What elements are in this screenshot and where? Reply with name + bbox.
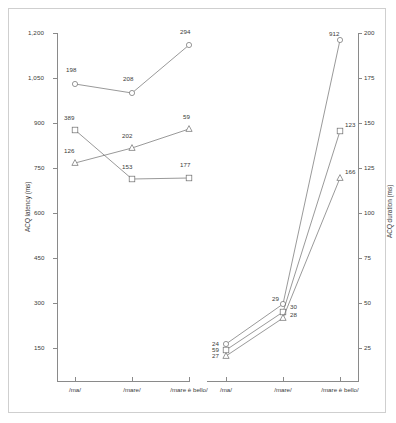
latency-circle-marker — [72, 81, 77, 86]
data-point-label: 912 — [329, 30, 339, 37]
data-point-label: 30 — [290, 303, 297, 310]
duration-triangle-marker — [280, 315, 286, 321]
duration-triangle-marker — [337, 175, 343, 181]
data-point-label: 389 — [64, 114, 74, 121]
plot-area: 1,200 1,050 900 750 600 450 300 150 200 … — [0, 0, 396, 423]
latency-circle-line — [75, 45, 189, 93]
data-point-label: 29 — [272, 295, 279, 302]
latency-circle-marker — [186, 42, 191, 47]
data-point-label: 126 — [64, 147, 74, 154]
duration-circle-line — [226, 40, 340, 344]
data-point-label: 153 — [122, 163, 132, 170]
duration-square-marker — [337, 128, 343, 134]
duration-circle-marker — [337, 37, 342, 42]
data-point-label: 59 — [183, 113, 190, 120]
data-point-label: 123 — [345, 121, 355, 128]
data-point-label: 198 — [66, 66, 76, 73]
duration-circle-marker — [223, 341, 228, 346]
data-point-label: 27 — [212, 352, 219, 359]
duration-triangle-marker — [223, 353, 229, 359]
data-point-label: 166 — [345, 168, 355, 175]
latency-square-marker — [72, 127, 78, 133]
series-container — [0, 0, 396, 423]
chart-page: 1,200 1,050 900 750 600 450 300 150 200 … — [0, 0, 396, 423]
data-point-label: 202 — [122, 132, 132, 139]
latency-circle-marker — [129, 90, 134, 95]
data-point-label: 177 — [180, 161, 190, 168]
data-point-label: 294 — [180, 28, 190, 35]
data-point-label: 208 — [123, 75, 133, 82]
latency-square-marker — [129, 176, 135, 182]
data-point-label: 28 — [290, 311, 297, 318]
latency-square-marker — [186, 175, 192, 181]
latency-triangle-marker — [186, 126, 192, 132]
duration-triangle-line — [226, 178, 340, 356]
